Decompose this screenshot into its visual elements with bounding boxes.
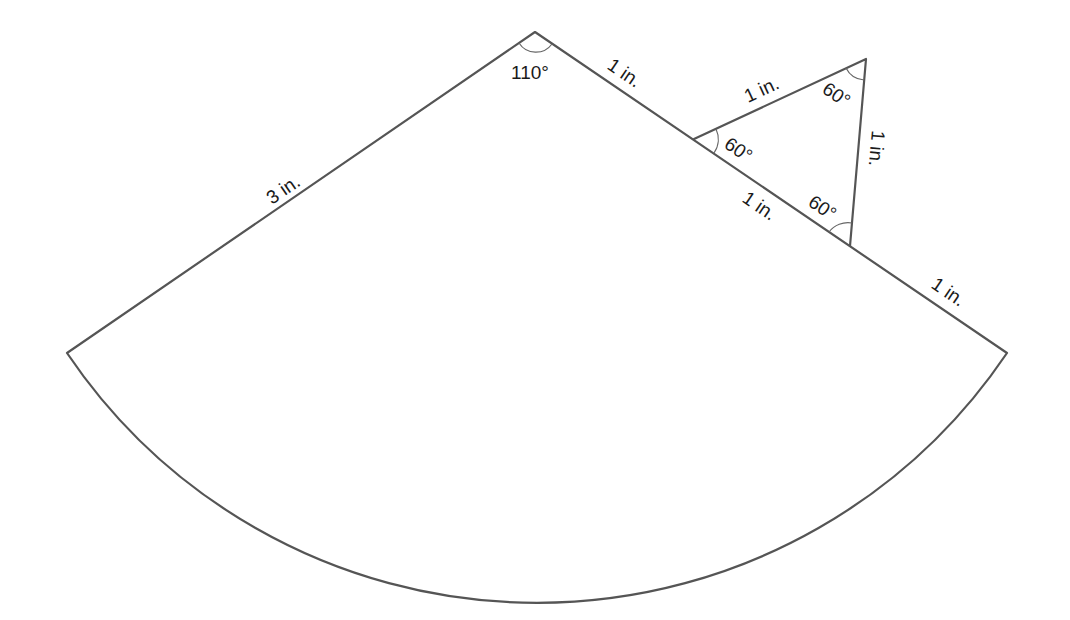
triangle-top-angle-label: 60° [819,78,855,111]
triangle-left-angle-arc [714,129,718,153]
sector-right-segment-label-1: 1 in. [604,54,646,92]
triangle-right-side-label: 1 in. [865,130,889,168]
triangle-top-angle-arc [846,68,864,80]
apex-angle-label: 110° [511,62,549,83]
cone-net-diagram: 110° 3 in. 1 in. 1 in. 1 in. 1 in. 1 in.… [0,0,1070,620]
sector-right-segment-label-3: 1 in. [928,273,970,311]
triangle-shared-side-label: 1 in. [739,187,781,225]
apex-angle-arc [519,43,552,52]
triangle-bottom-angle-arc [829,223,852,232]
sector-left-side-label: 3 in. [262,171,304,209]
sector-outline [67,32,1007,603]
